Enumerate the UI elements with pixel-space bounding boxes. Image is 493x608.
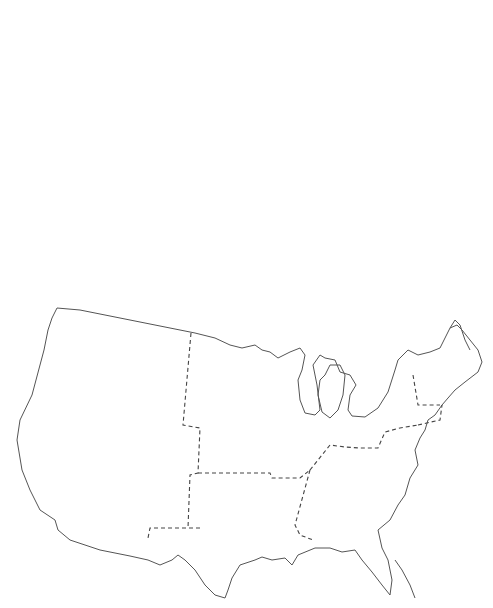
chart-layer [0, 0, 493, 608]
